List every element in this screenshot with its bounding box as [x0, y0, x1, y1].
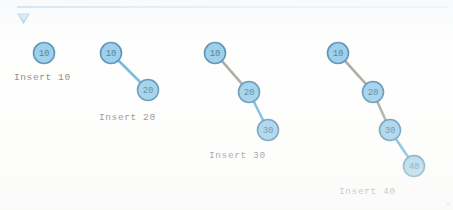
- tree-node-label: 40: [409, 162, 419, 172]
- tree-edge: [377, 101, 386, 122]
- tree-node-label: 30: [263, 126, 273, 136]
- tree-sequence-graphic: 10102010203010203040: [0, 0, 453, 210]
- tree-node-label: 30: [385, 126, 395, 136]
- tree-edge: [395, 138, 408, 158]
- tree-node-label: 10: [210, 49, 220, 59]
- step-caption: Insert 20: [99, 112, 156, 123]
- tree-step: 10: [34, 43, 55, 64]
- diagram-canvas: 10102010203010203040 Insert 10Insert 20I…: [0, 0, 453, 210]
- tree-edge: [118, 60, 142, 84]
- step-caption: Insert 10: [14, 72, 71, 83]
- tree-node-label: 10: [333, 49, 343, 59]
- step-caption: Insert 40: [339, 186, 396, 197]
- tree-node-label: 20: [143, 86, 153, 96]
- tree-node-label: 10: [39, 49, 49, 59]
- tree-node-label: 10: [106, 49, 116, 59]
- tree-step: 1020: [101, 43, 159, 101]
- tree-edge: [253, 100, 264, 121]
- tree-edge: [344, 60, 366, 85]
- tree-step: 10203040: [328, 43, 425, 177]
- tree-step: 102030: [205, 43, 279, 141]
- tree-node-label: 20: [244, 88, 254, 98]
- page-speck: [447, 203, 450, 206]
- tree-edge: [221, 60, 243, 85]
- step-caption: Insert 30: [209, 150, 266, 161]
- tree-node-label: 20: [368, 88, 378, 98]
